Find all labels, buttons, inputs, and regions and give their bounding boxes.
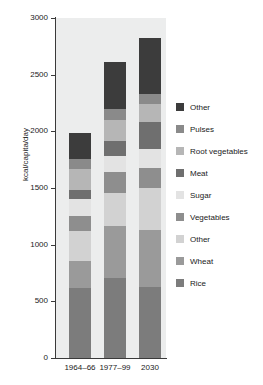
bar-segment-vegetables xyxy=(104,172,126,192)
bar-segment-meat xyxy=(69,190,91,199)
y-tick-mark xyxy=(51,188,56,189)
legend-label: Pulses xyxy=(190,125,214,134)
legend-item: Other xyxy=(176,228,262,250)
bar-segment-pulses xyxy=(139,94,161,104)
legend-item: Vegetables xyxy=(176,206,262,228)
y-tick-mark xyxy=(51,75,56,76)
y-tick-label: 2500 xyxy=(8,71,48,79)
y-tick-label: 1000 xyxy=(8,241,48,249)
legend-item: Root vegetables xyxy=(176,140,262,162)
bar-segment-sugar xyxy=(104,156,126,172)
bar-segment-wheat xyxy=(104,226,126,278)
bar-segment-other xyxy=(104,193,126,226)
y-tick-mark xyxy=(51,18,56,19)
y-tick-label: 1500 xyxy=(8,184,48,192)
bar-segment-vegetables xyxy=(69,216,91,230)
bar-segment-other xyxy=(139,188,161,230)
y-tick-mark xyxy=(51,131,56,132)
y-tick-label: 500 xyxy=(8,297,48,305)
legend-swatch-icon xyxy=(176,169,184,177)
legend-swatch-icon xyxy=(176,147,184,155)
legend-item: Pulses xyxy=(176,118,262,140)
bar-segment-other xyxy=(139,38,161,94)
stacked-bar-chart: kcal/capita/day 050010001500200025003000… xyxy=(0,0,263,385)
bar-segment-rice xyxy=(69,288,91,358)
y-tick-label: 2000 xyxy=(8,127,48,135)
bar-segment-pulses xyxy=(69,159,91,169)
bar-segment-vegetables xyxy=(139,168,161,188)
bar-segment-wheat xyxy=(139,230,161,287)
y-tick-mark xyxy=(51,245,56,246)
legend-swatch-icon xyxy=(176,279,184,287)
bar-segment-sugar xyxy=(69,199,91,216)
legend-item: Sugar xyxy=(176,184,262,206)
bar-segment-other xyxy=(69,133,91,159)
legend-label: Vegetables xyxy=(190,213,230,222)
x-axis-line xyxy=(55,358,167,359)
legend-label: Root vegetables xyxy=(190,147,248,156)
legend-swatch-icon xyxy=(176,125,184,133)
bar-segment-pulses xyxy=(104,109,126,120)
bar-1977–99 xyxy=(104,18,126,358)
legend-swatch-icon xyxy=(176,257,184,265)
y-tick-label: 3000 xyxy=(8,14,48,22)
bar-segment-other xyxy=(69,231,91,262)
legend-label: Meat xyxy=(190,169,208,178)
legend-label: Rice xyxy=(190,279,206,288)
legend-item: Meat xyxy=(176,162,262,184)
y-tick-mark xyxy=(51,301,56,302)
y-axis-title: kcal/capita/day xyxy=(21,90,30,220)
bar-segment-wheat xyxy=(69,261,91,288)
bar-segment-meat xyxy=(139,122,161,149)
y-tick-mark xyxy=(51,358,56,359)
bar-segment-sugar xyxy=(139,149,161,168)
bar-segment-rice xyxy=(104,278,126,358)
legend-swatch-icon xyxy=(176,235,184,243)
legend-swatch-icon xyxy=(176,103,184,111)
bar-segment-other xyxy=(104,62,126,108)
legend-item: Rice xyxy=(176,272,262,294)
legend-swatch-icon xyxy=(176,191,184,199)
legend-label: Other xyxy=(190,103,210,112)
bar-segment-root-vegetables xyxy=(104,120,126,141)
bar-segment-root-vegetables xyxy=(69,169,91,190)
bar-segment-root-vegetables xyxy=(139,104,161,122)
bar-segment-meat xyxy=(104,141,126,156)
chart-legend: OtherPulsesRoot vegetablesMeatSugarVeget… xyxy=(176,96,262,294)
legend-item: Wheat xyxy=(176,250,262,272)
legend-label: Wheat xyxy=(190,257,213,266)
x-axis-label: 2030 xyxy=(125,363,175,372)
legend-swatch-icon xyxy=(176,213,184,221)
bar-segment-rice xyxy=(139,287,161,358)
legend-item: Other xyxy=(176,96,262,118)
bar-2030 xyxy=(139,18,161,358)
legend-label: Sugar xyxy=(190,191,211,200)
legend-label: Other xyxy=(190,235,210,244)
y-tick-label: 0 xyxy=(8,354,48,362)
bar-1964–66 xyxy=(69,18,91,358)
